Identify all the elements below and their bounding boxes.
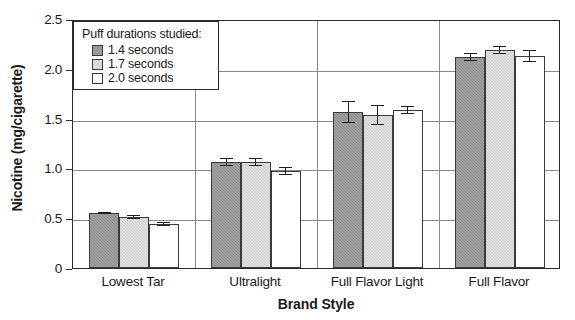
y-tick-mark (66, 269, 72, 270)
bar (241, 162, 271, 268)
error-bar-cap-top (523, 50, 536, 51)
legend-swatch-icon (92, 59, 103, 70)
error-bar-cap-top (249, 158, 262, 159)
legend-item: 1.7 seconds (92, 57, 218, 71)
y-tick-label: 2.0 (4, 62, 62, 77)
legend-swatch-icon (92, 45, 103, 56)
x-tick-label: Full Flavor Light (331, 274, 424, 289)
error-bar-cap-top (127, 215, 140, 216)
bar (271, 171, 301, 268)
y-tick-mark (66, 219, 72, 220)
error-bar-cap-top (464, 53, 477, 54)
error-bar-cap-top (220, 158, 233, 159)
y-tick-label: 2.5 (4, 12, 62, 27)
y-tick-mark (66, 120, 72, 121)
bar (211, 162, 241, 268)
error-bar-cap-top (342, 101, 355, 102)
bar (515, 56, 545, 268)
bar (485, 50, 515, 268)
bar (119, 217, 149, 268)
legend-swatch-icon (92, 73, 103, 84)
x-tick-label: Lowest Tar (101, 274, 164, 289)
bar (363, 115, 393, 268)
bar (455, 57, 485, 268)
legend-item-label: 1.4 seconds (108, 43, 173, 57)
legend-item-label: 1.7 seconds (108, 57, 173, 71)
x-axis-title: Brand Style (72, 296, 560, 312)
category-separator (439, 21, 440, 268)
error-bar-cap-top (371, 105, 384, 106)
y-tick-mark (66, 20, 72, 21)
error-bar-cap-top (279, 167, 292, 168)
bar (89, 213, 119, 268)
bar-chart-figure: Nicotine (mg/cigarette) 00.51.01.52.02.5… (0, 0, 575, 320)
bar (149, 224, 179, 268)
y-tick-label: 1.5 (4, 112, 62, 127)
legend: Puff durations studied: 1.4 seconds1.7 s… (73, 21, 219, 90)
error-bar-cap-top (157, 222, 170, 223)
error-bar-cap-top (401, 106, 414, 107)
x-tick-label: Ultralight (229, 274, 280, 289)
bar (333, 112, 363, 268)
bar (393, 110, 423, 268)
y-tick-mark (66, 169, 72, 170)
legend-item-label: 2.0 seconds (108, 71, 173, 85)
y-tick-label: 1.0 (4, 161, 62, 176)
legend-title: Puff durations studied: (82, 27, 218, 41)
legend-item: 1.4 seconds (92, 43, 218, 57)
legend-item: 2.0 seconds (92, 71, 218, 85)
error-bar-cap-top (493, 46, 506, 47)
y-tick-label: 0.5 (4, 211, 62, 226)
x-tick-label: Full Flavor (469, 274, 530, 289)
legend-items: 1.4 seconds1.7 seconds2.0 seconds (82, 43, 218, 85)
y-tick-mark (66, 70, 72, 71)
category-separator (317, 21, 318, 268)
y-tick-label: 0 (4, 261, 62, 276)
